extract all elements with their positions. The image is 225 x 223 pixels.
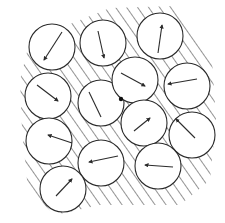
disk <box>25 73 71 119</box>
disk-outline <box>25 73 71 119</box>
disk-packing-diagram <box>0 0 225 223</box>
disk <box>164 63 210 109</box>
disk <box>121 100 167 146</box>
disk <box>80 20 126 66</box>
disk <box>40 166 86 212</box>
contact-dot-marker <box>119 97 123 101</box>
disk <box>112 57 158 103</box>
disk-outline <box>78 140 124 186</box>
disk <box>135 143 181 189</box>
disk <box>29 24 75 70</box>
disk-outline <box>164 63 210 109</box>
disk <box>78 140 124 186</box>
disk-outline <box>80 20 126 66</box>
disk <box>137 13 183 59</box>
disk <box>26 118 72 164</box>
